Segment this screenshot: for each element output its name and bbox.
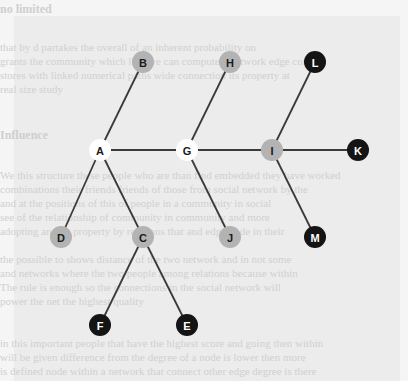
node-h: H	[219, 51, 241, 73]
node-l: L	[304, 51, 326, 73]
edges	[61, 62, 358, 325]
node-label: F	[97, 320, 104, 332]
edge-c-f	[100, 237, 143, 325]
node-c: C	[132, 226, 154, 248]
edge-a-c	[100, 150, 143, 237]
node-label: I	[270, 145, 273, 157]
edge-g-h	[187, 62, 230, 150]
edge-i-l	[272, 62, 315, 150]
edge-a-b	[100, 62, 143, 150]
node-b: B	[132, 51, 154, 73]
network-diagram: ABCDEFGHIJKLM	[0, 0, 408, 381]
node-label: B	[139, 57, 147, 69]
node-d: D	[50, 226, 72, 248]
node-j: J	[219, 226, 241, 248]
node-label: M	[310, 232, 319, 244]
node-label: K	[354, 145, 362, 157]
node-g: G	[176, 139, 198, 161]
node-label: G	[183, 145, 192, 157]
edge-g-j	[187, 150, 230, 237]
node-m: M	[304, 226, 326, 248]
node-label: D	[57, 232, 65, 244]
node-label: H	[226, 57, 234, 69]
edge-c-e	[143, 237, 187, 325]
edge-i-m	[272, 150, 315, 237]
node-a: A	[89, 139, 111, 161]
node-f: F	[89, 314, 111, 336]
node-label: A	[96, 145, 104, 157]
node-i: I	[261, 139, 283, 161]
node-label: C	[139, 232, 147, 244]
node-e: E	[176, 314, 198, 336]
node-label: L	[312, 57, 319, 69]
node-label: J	[227, 232, 233, 244]
edge-a-d	[61, 150, 100, 237]
node-label: E	[183, 320, 190, 332]
node-k: K	[347, 139, 369, 161]
